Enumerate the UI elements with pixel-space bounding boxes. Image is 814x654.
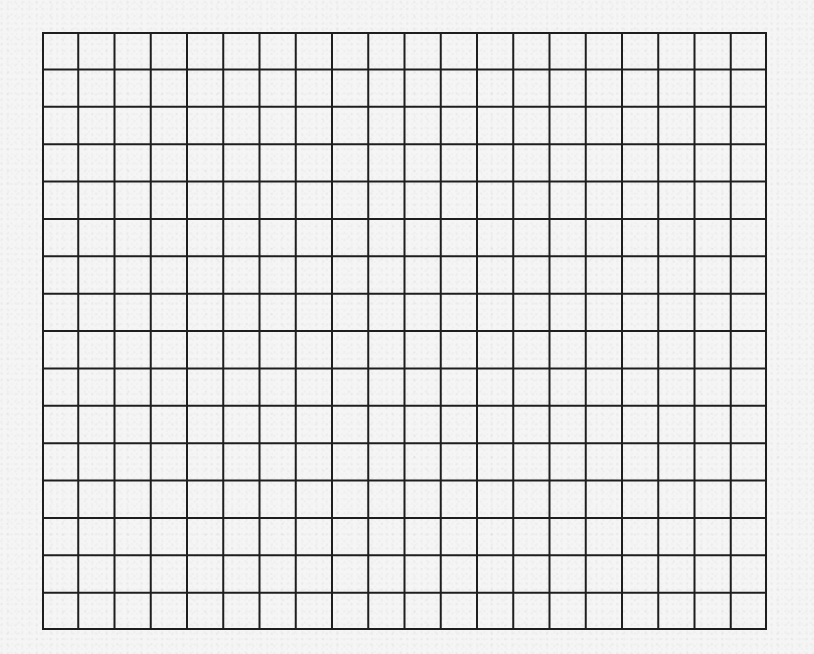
blank-grid bbox=[42, 32, 767, 630]
paper-background bbox=[0, 0, 814, 654]
grid-lines bbox=[42, 32, 767, 630]
